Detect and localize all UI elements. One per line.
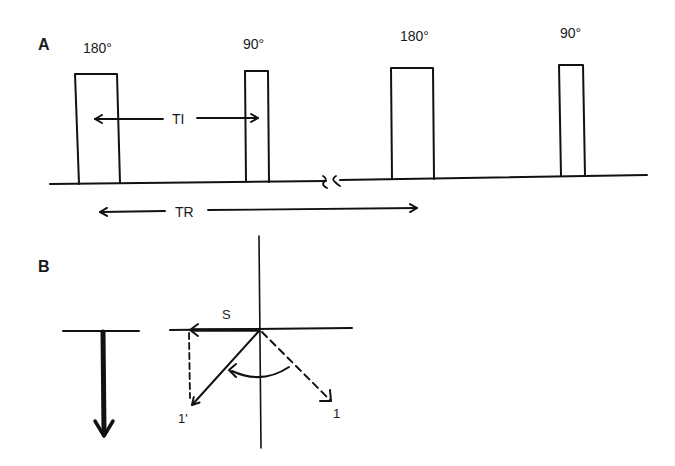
rotated-vector-1-prime [192, 331, 259, 405]
inverted-magnetization-shaft [103, 332, 104, 432]
pulse-90-first [245, 71, 269, 182]
panel-a-label: A [38, 36, 50, 53]
pulse-180-second-label: 180° [400, 28, 429, 44]
pulse-90-second-label: 90° [560, 25, 581, 41]
axis-break-mark-left [323, 176, 327, 188]
signal-label-s: S [222, 307, 231, 322]
original-vector-label: 1 [333, 406, 340, 421]
projection-dashed-line [189, 333, 190, 398]
vertical-axis [259, 236, 261, 448]
panel-a: A 180° 90° 180° 90° TI TR [38, 25, 647, 220]
timeline-baseline-right [340, 175, 647, 180]
tr-arrow-left [100, 211, 165, 212]
pulse-180-second [391, 68, 434, 179]
axis-break-mark-right [333, 176, 340, 186]
timeline-baseline-left [50, 181, 326, 184]
original-vector-1-dashed [262, 332, 330, 400]
rotated-vector-label: 1' [178, 411, 188, 426]
ti-label: TI [172, 111, 184, 127]
panel-b: B S 1' 1 [38, 236, 352, 448]
tr-arrow-right [208, 208, 417, 210]
pulse-90-second [559, 65, 585, 176]
panel-b-label: B [38, 258, 50, 275]
pulse-90-first-label: 90° [243, 36, 264, 52]
pulse-180-first-label: 180° [83, 40, 112, 56]
inversion-recovery-diagram: A 180° 90° 180° 90° TI TR B [0, 0, 675, 466]
pulse-180-first [75, 74, 120, 184]
tr-label: TR [175, 204, 194, 220]
